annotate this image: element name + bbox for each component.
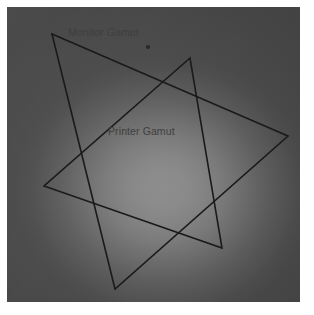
gamut-comparison-figure: Monitor Gamut Printer Gamut [0, 0, 314, 315]
monitor-gamut-label: Monitor Gamut [68, 27, 139, 38]
gamut-outlines-svg [0, 0, 314, 315]
reference-point-marker [146, 45, 150, 49]
printer-gamut-label: Printer Gamut [108, 126, 175, 137]
monitor-gamut-triangle [52, 34, 288, 289]
printer-gamut-triangle [44, 58, 222, 248]
